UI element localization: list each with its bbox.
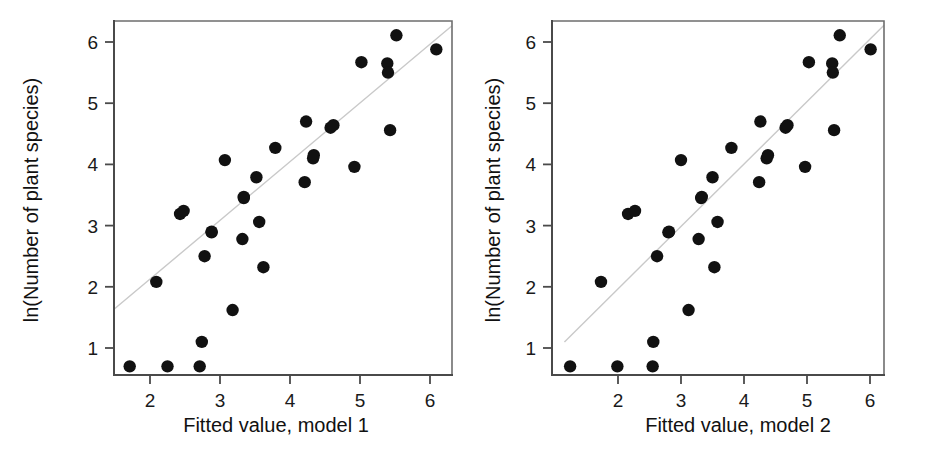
data-point <box>299 176 311 188</box>
data-point <box>177 205 189 217</box>
data-point <box>663 226 675 238</box>
data-point <box>696 191 708 203</box>
data-point <box>236 233 248 245</box>
y-tick-label: 4 <box>87 154 98 175</box>
data-point <box>161 360 173 372</box>
data-point <box>692 233 704 245</box>
plot-frame-top-right <box>114 21 452 375</box>
data-point <box>675 154 687 166</box>
data-point <box>226 304 238 316</box>
x-tick-label: 4 <box>285 390 296 411</box>
data-point <box>828 124 840 136</box>
data-point <box>198 250 210 262</box>
data-point <box>564 360 576 372</box>
data-point <box>124 360 136 372</box>
x-tick-label: 5 <box>355 390 366 411</box>
data-point <box>348 161 360 173</box>
data-point <box>711 216 723 228</box>
x-tick-label: 3 <box>215 390 226 411</box>
data-point <box>651 250 663 262</box>
data-point <box>257 261 269 273</box>
data-points-model-1 <box>124 29 443 372</box>
data-point <box>611 360 623 372</box>
data-point <box>725 142 737 154</box>
x-tick-label: 3 <box>676 390 687 411</box>
scatter-figure: 23456123456 Fitted value, model 1 ln(Num… <box>0 0 932 456</box>
y-tick-label: 4 <box>525 154 536 175</box>
data-point <box>250 171 262 183</box>
x-tick-label: 6 <box>865 390 876 411</box>
data-point <box>682 304 694 316</box>
data-point <box>253 216 265 228</box>
data-point <box>194 360 206 372</box>
x-tick-label: 6 <box>425 390 436 411</box>
data-point <box>646 360 658 372</box>
data-point <box>384 124 396 136</box>
data-point <box>382 66 394 78</box>
data-point <box>150 276 162 288</box>
data-point <box>827 66 839 78</box>
data-point <box>327 119 339 131</box>
axes-model-1 <box>114 21 452 375</box>
y-axis-title-model-1: ln(Number of plant species) <box>20 78 42 323</box>
data-point <box>205 226 217 238</box>
y-tick-label: 3 <box>87 216 98 237</box>
data-point <box>803 56 815 68</box>
y-tick-label: 1 <box>525 338 536 359</box>
data-point <box>300 115 312 127</box>
x-axis-title-model-1: Fitted value, model 1 <box>183 414 369 436</box>
x-tick-label: 2 <box>145 390 156 411</box>
y-tick-label: 2 <box>525 277 536 298</box>
data-point <box>754 115 766 127</box>
y-tick-label: 2 <box>87 277 98 298</box>
y-tick-label: 5 <box>525 93 536 114</box>
data-point <box>355 56 367 68</box>
plot-area-model-1: 23456123456 Fitted value, model 1 ln(Num… <box>0 0 466 456</box>
panel-model-2: 23456123456 Fitted value, model 2 ln(Num… <box>466 0 932 456</box>
data-point <box>308 149 320 161</box>
data-point <box>196 336 208 348</box>
y-tick-label: 6 <box>87 32 98 53</box>
data-point <box>219 154 231 166</box>
tick-labels-model-2: 23456123456 <box>525 32 875 411</box>
y-tick-label: 1 <box>87 338 98 359</box>
data-point <box>753 176 765 188</box>
plot-axis-left-bottom <box>114 21 452 375</box>
data-point <box>238 191 250 203</box>
data-point <box>430 43 442 55</box>
data-point <box>390 29 402 41</box>
plot-area-model-2: 23456123456 Fitted value, model 2 ln(Num… <box>466 0 932 456</box>
data-point <box>781 119 793 131</box>
x-axis-title-model-2: Fitted value, model 2 <box>645 414 831 436</box>
data-point <box>629 205 641 217</box>
data-point <box>595 276 607 288</box>
y-tick-label: 3 <box>525 216 536 237</box>
tick-marks-model-2 <box>543 42 870 384</box>
x-tick-label: 5 <box>802 390 813 411</box>
data-point <box>708 261 720 273</box>
data-point <box>269 142 281 154</box>
data-points-model-2 <box>564 29 877 372</box>
data-point <box>706 171 718 183</box>
x-tick-label: 2 <box>613 390 624 411</box>
data-point <box>799 161 811 173</box>
data-point <box>647 336 659 348</box>
data-point <box>834 29 846 41</box>
x-tick-label: 4 <box>739 390 750 411</box>
y-tick-label: 5 <box>87 93 98 114</box>
reference-line <box>114 26 452 310</box>
tick-marks-model-1 <box>105 42 430 384</box>
panel-model-1: 23456123456 Fitted value, model 1 ln(Num… <box>0 0 466 456</box>
data-point <box>864 43 876 55</box>
y-tick-label: 6 <box>525 32 536 53</box>
y-axis-title-model-2: ln(Number of plant species) <box>482 78 504 323</box>
data-point <box>762 149 774 161</box>
trendline-model-1 <box>114 26 452 310</box>
